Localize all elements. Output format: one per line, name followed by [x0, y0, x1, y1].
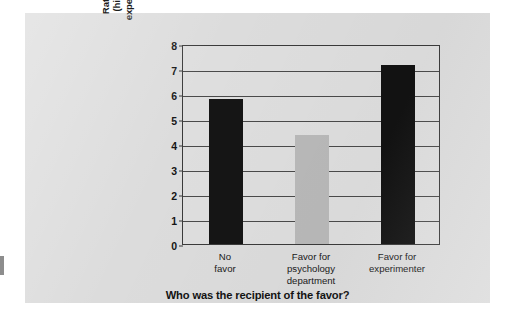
y-tick-label: 7	[171, 66, 177, 77]
y-axis-title-line-1: Rating of experimenter	[100, 0, 112, 14]
figure-panel: Rating of experimenter (higher scores me…	[25, 13, 490, 303]
y-tick-mark	[179, 96, 183, 97]
y-tick-label: 0	[171, 241, 177, 252]
plot-area: 012345678	[182, 45, 440, 245]
category-label-line: experimenter	[344, 263, 450, 275]
page-edge-artifact	[0, 256, 4, 275]
category-label-line: department	[258, 275, 364, 287]
y-tick-label: 2	[171, 191, 177, 202]
y-axis-title-line-2: (higher scores means	[111, 0, 123, 12]
y-axis-title-line-3: experimenter better liked)	[123, 0, 135, 20]
category-label-line: Favor for	[344, 251, 450, 263]
y-tick-label: 3	[171, 166, 177, 177]
y-tick-label: 1	[171, 216, 177, 227]
y-axis-title: Rating of experimenter (higher scores me…	[106, 0, 128, 53]
y-tick-label: 6	[171, 91, 177, 102]
y-tick-label: 5	[171, 116, 177, 127]
y-tick-mark	[179, 71, 183, 72]
y-tick-mark	[179, 171, 183, 172]
y-tick-mark	[179, 246, 183, 247]
y-tick-label: 4	[171, 141, 177, 152]
bar	[381, 65, 415, 244]
bar	[209, 99, 243, 244]
category-label: Favor forexperimenter	[344, 251, 450, 275]
y-tick-mark	[179, 221, 183, 222]
y-tick-mark	[179, 46, 183, 47]
y-tick-mark	[179, 196, 183, 197]
x-axis-title: Who was the recipient of the favor?	[25, 289, 490, 301]
bar	[295, 135, 329, 244]
y-tick-mark	[179, 146, 183, 147]
y-tick-mark	[179, 121, 183, 122]
y-tick-label: 8	[171, 41, 177, 52]
